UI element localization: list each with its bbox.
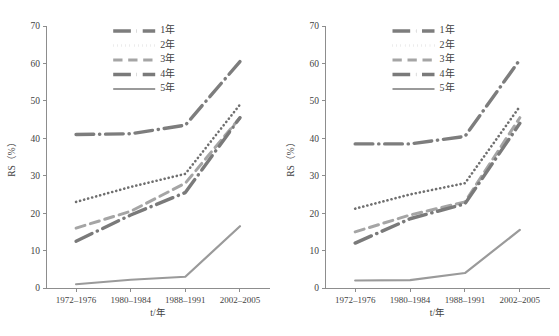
x-tick-label: 1980–1984: [390, 295, 431, 305]
legend-label-5年: 5年: [440, 81, 455, 93]
y-tick-label: 10: [310, 246, 320, 256]
x-tick-label: 1988–1991: [445, 295, 486, 305]
x-tick-label: 2002–2005: [500, 295, 541, 305]
y-tick-label: 70: [310, 21, 320, 31]
series-line-5年: [76, 226, 240, 284]
y-tick-label: 40: [310, 134, 320, 144]
y-axis-title: RS（%）: [6, 137, 17, 177]
chart-panel-right: 0102030405060701972–19761980–19841988–19…: [279, 0, 558, 336]
legend-label-1年: 1年: [160, 23, 175, 35]
x-tick-label: 1972–1976: [56, 295, 97, 305]
y-tick-label: 30: [31, 171, 41, 181]
series-line-1年: [355, 60, 520, 144]
y-tick-label: 10: [31, 246, 41, 256]
y-tick-label: 60: [31, 59, 41, 69]
series-line-5年: [355, 230, 520, 281]
series-line-3年: [355, 118, 520, 232]
legend-label-5年: 5年: [160, 81, 175, 93]
y-tick-label: 70: [31, 21, 41, 31]
y-tick-label: 30: [310, 171, 320, 181]
plot-area-left: 0102030405060701972–19761980–19841988–19…: [6, 21, 270, 318]
y-tick-label: 60: [310, 59, 320, 69]
y-tick-label: 50: [31, 96, 41, 106]
legend-label-2年: 2年: [440, 38, 455, 50]
chart-svg-left: 0102030405060701972–19761980–19841988–19…: [0, 0, 279, 336]
y-tick-label: 40: [31, 134, 41, 144]
legend-label-2年: 2年: [160, 38, 175, 50]
y-tick-label: 20: [31, 209, 41, 219]
legend-label-3年: 3年: [440, 52, 455, 64]
two-panel-line-chart-figure: 0102030405060701972–19761980–19841988–19…: [0, 0, 559, 336]
legend-label-1年: 1年: [440, 23, 455, 35]
x-axis-title: t/年: [430, 307, 445, 318]
series-line-2年: [76, 105, 240, 202]
legend-label-3年: 3年: [160, 52, 175, 64]
plot-area-right: 0102030405060701972–19761980–19841988–19…: [285, 21, 550, 318]
x-tick-label: 1988–1991: [165, 295, 206, 305]
legend-label-4年: 4年: [160, 67, 175, 79]
x-axis-title: t/年: [150, 307, 165, 318]
series-line-1年: [76, 62, 240, 135]
y-tick-label: 0: [314, 283, 319, 293]
y-tick-label: 20: [310, 209, 320, 219]
legend-label-4年: 4年: [440, 67, 455, 79]
y-axis-title: RS（%）: [285, 137, 296, 177]
x-tick-label: 1972–1976: [335, 295, 376, 305]
x-tick-label: 2002–2005: [220, 295, 261, 305]
series-line-4年: [76, 118, 240, 242]
chart-panel-left: 0102030405060701972–19761980–19841988–19…: [0, 0, 279, 336]
chart-svg-right: 0102030405060701972–19761980–19841988–19…: [279, 0, 559, 336]
y-tick-label: 50: [310, 96, 320, 106]
x-tick-label: 1980–1984: [110, 295, 151, 305]
y-tick-label: 0: [35, 283, 40, 293]
